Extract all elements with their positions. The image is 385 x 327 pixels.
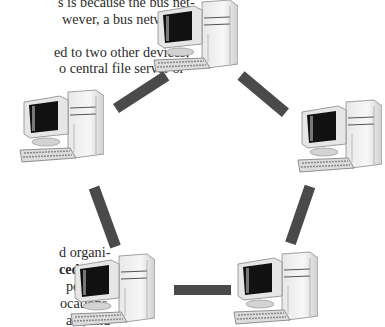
link-right-bottom	[285, 185, 315, 245]
link-top-left	[113, 71, 169, 113]
link-bottom	[174, 285, 231, 295]
computer-icon-bottom-right	[232, 250, 318, 327]
computer-icon-top	[152, 0, 238, 76]
link-top-right	[237, 71, 289, 117]
computer-icon-bottom-left	[69, 252, 155, 327]
link-left-bottom	[89, 186, 121, 249]
computer-icon-right	[296, 98, 382, 176]
computer-icon-left	[18, 88, 104, 166]
